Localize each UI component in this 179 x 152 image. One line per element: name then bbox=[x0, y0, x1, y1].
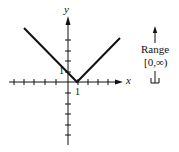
y-axis-arrow-icon bbox=[66, 16, 71, 25]
x-tick-label-1: 1 bbox=[75, 87, 80, 97]
figure: y x 1 1 Range [0,∞) bbox=[0, 0, 179, 152]
x-axis-arrow-icon bbox=[115, 80, 123, 85]
range-value: [0,∞) bbox=[144, 57, 167, 68]
y-axis-label: y bbox=[64, 4, 69, 15]
range-title: Range bbox=[141, 44, 169, 55]
graph-svg bbox=[0, 0, 179, 152]
x-axis-label: x bbox=[126, 75, 131, 86]
y-tick-label-1: 1 bbox=[59, 66, 64, 76]
range-up-arrow-icon bbox=[153, 26, 157, 33]
function-curve bbox=[24, 28, 120, 82]
